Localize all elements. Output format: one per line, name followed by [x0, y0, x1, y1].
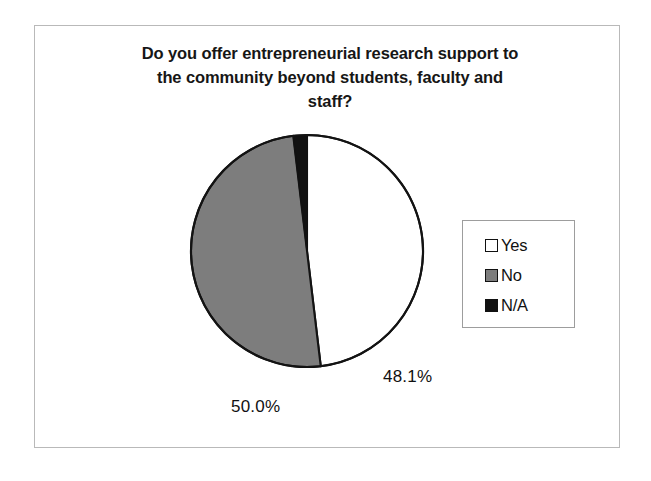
pie-label-yes: 48.1% — [383, 367, 432, 387]
chart-title-line-1: Do you offer entrepreneurial research su… — [105, 41, 555, 65]
pie-label-no: 50.0% — [231, 397, 280, 417]
chart-canvas: Do you offer entrepreneurial research su… — [0, 0, 651, 481]
chart-title-line-3: staff? — [105, 89, 555, 113]
pie-chart: 48.1% 50.0% — [187, 131, 427, 371]
legend-label-no: No — [501, 267, 522, 284]
legend-item-yes: Yes — [463, 230, 574, 260]
pie-chart-svg — [187, 131, 427, 371]
chart-legend: Yes No N/A — [462, 220, 575, 328]
legend-swatch-yes-icon — [485, 239, 498, 252]
pie-slice-yes — [307, 135, 423, 366]
legend-swatch-no-icon — [485, 269, 498, 282]
legend-label-na: N/A — [501, 297, 528, 314]
chart-frame: Do you offer entrepreneurial research su… — [34, 25, 620, 448]
legend-item-na: N/A — [463, 290, 574, 320]
chart-title-line-2: the community beyond students, faculty a… — [105, 65, 555, 89]
legend-item-no: No — [463, 260, 574, 290]
legend-swatch-na-icon — [485, 299, 498, 312]
legend-label-yes: Yes — [501, 237, 527, 254]
chart-title: Do you offer entrepreneurial research su… — [105, 41, 555, 113]
